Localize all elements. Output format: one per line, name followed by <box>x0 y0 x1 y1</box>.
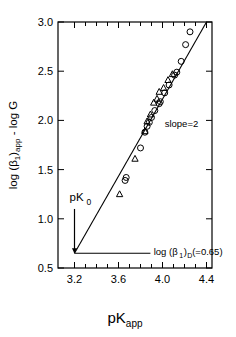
beta1d-text-a: log (β <box>154 246 178 257</box>
fit-line <box>75 22 207 253</box>
beta1d-text-c: (=0.65) <box>192 246 222 257</box>
x-tick-label: 4.0 <box>155 273 170 285</box>
y-tick-label: 3.0 <box>38 16 53 28</box>
x-axis-title-main: pK <box>107 309 125 326</box>
y-tick-label: 1.5 <box>38 164 53 176</box>
y-tick-label: 2.0 <box>38 114 53 126</box>
y-tick-label: 2.5 <box>38 65 53 77</box>
data-point-triangle <box>132 155 138 161</box>
x-axis-title-sub: app <box>126 318 143 329</box>
x-tick-label: 3.2 <box>67 273 82 285</box>
beta1d-text-sub1: 1 <box>179 252 183 259</box>
data-point-circle <box>178 58 184 64</box>
plot-frame <box>58 22 212 268</box>
ylab-part-c: - log G <box>7 101 19 139</box>
data-point-triangle <box>116 191 122 197</box>
axis-ticks <box>58 22 212 268</box>
reference-lines <box>72 209 150 253</box>
chart-figure: 3.23.64.04.4 0.51.01.52.02.53.0 slope=2 … <box>0 0 236 337</box>
x-axis-title: pKapp <box>107 309 142 329</box>
data-point-triangle <box>151 99 157 105</box>
x-axis-title-text: pKapp <box>107 309 142 329</box>
x-tick-label: 3.6 <box>111 273 126 285</box>
y-tick-labels: 0.51.01.52.02.53.0 <box>38 16 53 274</box>
x-tick-labels: 3.23.64.04.4 <box>67 273 214 285</box>
ylab-sub-app: app <box>13 138 22 152</box>
x-tick-label: 4.4 <box>199 273 214 285</box>
data-point-circle <box>183 42 189 48</box>
pk0-label: pK 0 <box>70 191 92 207</box>
data-point-circle <box>187 29 193 35</box>
y-tick-label: 1.0 <box>38 213 53 225</box>
y-axis-title: log (β1)app - log G <box>7 101 22 189</box>
ylab-part-a: log (β <box>7 160 19 189</box>
y-axis-title-text: log (β1)app - log G <box>7 101 22 189</box>
data-point-triangle <box>165 77 171 83</box>
pk0-label-sub: 0 <box>87 197 92 207</box>
pk0-label-main: pK <box>70 191 84 203</box>
scatter-plot: 3.23.64.04.4 0.51.01.52.02.53.0 slope=2 … <box>0 0 236 337</box>
y-tick-label: 0.5 <box>38 262 53 274</box>
data-point-circle <box>138 145 144 151</box>
slope-label: slope=2 <box>165 118 199 129</box>
